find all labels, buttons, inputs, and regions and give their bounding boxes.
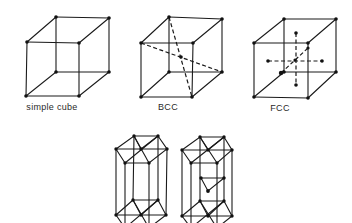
face-center-atom: [294, 31, 298, 35]
face-center-atom: [294, 83, 298, 87]
simple-cube-label: simple cube: [26, 102, 77, 112]
fcc-label: FCC: [270, 103, 289, 113]
face-center-atom: [279, 71, 283, 75]
simple-cube-diagram: [24, 15, 111, 98]
body-center-atom: [179, 55, 183, 59]
center-point: [293, 58, 296, 61]
hcp-left-diagram: [114, 134, 168, 223]
fcc-diagram: [252, 17, 338, 100]
bcc-label: BCC: [158, 102, 178, 112]
bcc-diagram: [139, 15, 224, 99]
face-center-atom: [306, 46, 309, 49]
hcp-right-diagram: [180, 135, 233, 223]
face-center-atom: [320, 59, 324, 63]
crystal-structures-figure: simple cube BCC FCC: [0, 0, 352, 223]
mid-plane-triangle: [201, 178, 224, 191]
face-center-atom: [266, 59, 270, 63]
